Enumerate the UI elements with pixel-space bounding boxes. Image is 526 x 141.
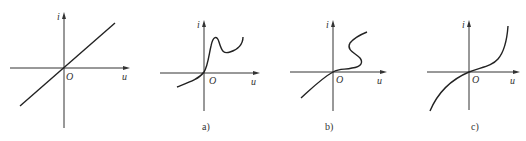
u-axis-label: u bbox=[251, 77, 256, 87]
i-axis-label: i bbox=[197, 20, 200, 30]
figure-canvas bbox=[0, 0, 526, 141]
u-axis-arrow-icon bbox=[123, 66, 130, 70]
origin-label: O bbox=[336, 75, 343, 85]
panel-linear bbox=[10, 12, 130, 128]
origin-label: O bbox=[209, 76, 216, 86]
iv-curve-linear bbox=[20, 23, 115, 106]
u-axis-label: u bbox=[377, 76, 382, 86]
i-axis-label: i bbox=[57, 12, 60, 22]
u-axis-label: u bbox=[122, 72, 127, 82]
origin-label: O bbox=[66, 72, 73, 82]
panel-caption-c: c) bbox=[471, 122, 479, 132]
i-axis-label: i bbox=[462, 20, 465, 30]
panel-caption-a: a) bbox=[202, 122, 210, 132]
u-axis-arrow-icon bbox=[380, 70, 387, 74]
iv-curve-b bbox=[301, 32, 367, 98]
origin-label: O bbox=[472, 75, 479, 85]
u-axis-label: u bbox=[510, 76, 515, 86]
i-axis-arrow-icon bbox=[467, 20, 471, 27]
panel-b bbox=[290, 20, 387, 111]
i-axis-arrow-icon bbox=[331, 20, 335, 27]
u-axis-arrow-icon bbox=[513, 70, 520, 74]
panel-a bbox=[160, 20, 260, 111]
panel-caption-b: b) bbox=[325, 122, 333, 132]
i-axis-label: i bbox=[326, 20, 329, 30]
u-axis-arrow-icon bbox=[253, 71, 260, 75]
i-axis-arrow-icon bbox=[202, 20, 206, 27]
panel-c bbox=[427, 20, 520, 111]
i-axis-arrow-icon bbox=[62, 12, 66, 19]
